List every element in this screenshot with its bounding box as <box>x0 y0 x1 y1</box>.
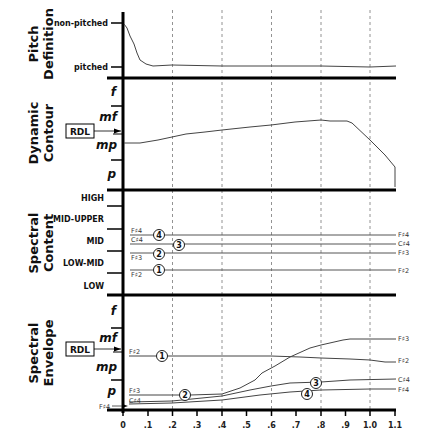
svg-text:3: 3 <box>313 379 319 388</box>
panel-spectral-content: Spectral Content HIGH MID-UPPER MID LOW-… <box>26 194 410 291</box>
env-marker-3: 3 <box>311 378 322 389</box>
svg-text:0: 0 <box>120 421 126 430</box>
svg-text:.8: .8 <box>317 421 326 430</box>
multi-panel-chart: Pitch Definition non-pitched pitched Dyn… <box>0 0 426 442</box>
rdl-label-2: RDL <box>70 345 90 355</box>
env-note-right-fs2: F♯2 <box>398 357 409 365</box>
tick-non-pitched: non-pitched <box>54 19 108 28</box>
panel-title-dynamic: Dynamic <box>26 101 41 164</box>
panel-title-pitch: Pitch <box>26 25 41 62</box>
env-marker-4: 4 <box>302 389 313 400</box>
tick-p-2: p <box>106 384 116 398</box>
env-note-left-fs2: F♯2 <box>129 348 140 356</box>
panel-dynamic-contour: Dynamic Contour f mf mp p RDL <box>26 85 395 187</box>
panel-spectral-envelope: Spectral Envelope f mf mp p RDL F♯2 F♯3 … <box>26 304 410 411</box>
panel-title-spectral: Spectral <box>26 212 41 273</box>
tick-p: p <box>106 167 116 181</box>
marker-2: 2 <box>154 249 165 260</box>
note-left-fs3: F♯3 <box>131 254 142 262</box>
svg-text:2: 2 <box>156 250 162 259</box>
svg-text:.1: .1 <box>144 421 153 430</box>
svg-text:1: 1 <box>156 266 162 275</box>
env-curve-fs3 <box>129 339 396 395</box>
svg-text:1.0: 1.0 <box>363 421 378 430</box>
tick-low: LOW <box>84 282 105 291</box>
svg-text:.2: .2 <box>168 421 177 430</box>
tick-low-mid: LOW-MID <box>63 259 104 268</box>
pitch-curve <box>124 24 396 67</box>
panel-title-contour: Contour <box>41 103 56 162</box>
note-right-cs4: C♯4 <box>398 240 410 248</box>
svg-text:1.1: 1.1 <box>388 421 403 430</box>
note-left-fs4: F♯4 <box>131 227 142 235</box>
tick-high: HIGH <box>81 194 104 203</box>
svg-text:.5: .5 <box>242 421 251 430</box>
svg-text:.6: .6 <box>267 421 276 430</box>
env-curve-cs4 <box>129 389 396 404</box>
tick-mf: mf <box>99 110 119 124</box>
svg-text:.4: .4 <box>218 421 227 430</box>
env-curve-fs4-env <box>129 379 396 402</box>
svg-text:2: 2 <box>182 391 188 400</box>
marker-1: 1 <box>154 265 165 276</box>
svg-text:4: 4 <box>156 231 162 240</box>
marker-4: 4 <box>154 230 165 241</box>
panel-title-spectral-2: Spectral <box>26 322 41 383</box>
gridlines <box>173 10 371 410</box>
env-note-left-fs4: F♯4 <box>99 403 110 411</box>
note-right-fs4: F♯4 <box>398 231 409 239</box>
env-note-right-fs4: F♯4 <box>398 386 409 394</box>
env-curve-fs2 <box>129 356 396 362</box>
note-left-fs2: F♯2 <box>131 271 142 279</box>
svg-text:4: 4 <box>304 390 310 399</box>
env-note-right-cs4: C♯4 <box>398 376 410 384</box>
tick-mp: mp <box>96 138 118 152</box>
svg-text:3: 3 <box>176 241 182 250</box>
panel-title-envelope: Envelope <box>41 319 56 386</box>
marker-3: 3 <box>174 240 185 251</box>
tick-mf-2: mf <box>99 331 119 345</box>
tick-mid-upper: MID-UPPER <box>53 215 104 224</box>
svg-text:1: 1 <box>159 352 165 361</box>
note-right-fs3: F♯3 <box>398 249 409 257</box>
note-right-fs2: F♯2 <box>398 267 409 275</box>
env-note-right-fs3: F♯3 <box>398 335 409 343</box>
svg-text:.7: .7 <box>292 421 301 430</box>
x-tick-labels: 0 .1 .2 .3 .4 .5 .6 .7 .8 .9 1.0 1.1 <box>120 421 402 430</box>
env-marker-2: 2 <box>180 390 191 401</box>
env-marker-1: 1 <box>157 351 168 362</box>
tick-pitched: pitched <box>74 63 108 72</box>
tick-f: f <box>111 85 118 99</box>
svg-text:.3: .3 <box>193 421 202 430</box>
tick-mid: MID <box>86 237 104 246</box>
svg-text:.9: .9 <box>341 421 350 430</box>
tick-mp-2: mp <box>96 360 118 374</box>
tick-f-2: f <box>111 304 118 318</box>
panel-pitch-definition: Pitch Definition non-pitched pitched <box>26 8 396 80</box>
note-left-cs4: C♯4 <box>131 236 143 244</box>
env-note-left-fs3: F♯3 <box>129 387 140 395</box>
rdl-label: RDL <box>70 127 90 137</box>
